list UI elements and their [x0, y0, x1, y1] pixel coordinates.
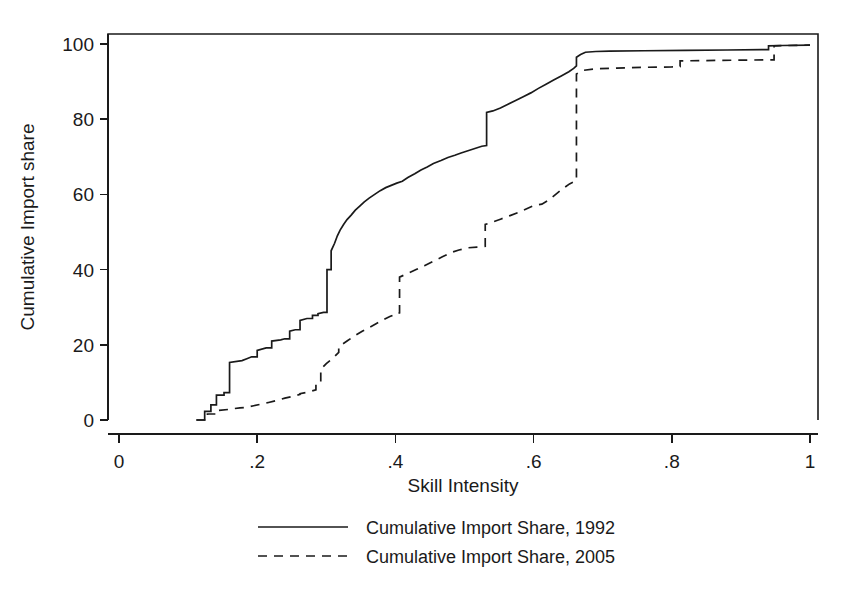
y-tick-label-40: 40 — [73, 260, 94, 281]
y-axis-label: Cumulative Import share — [17, 124, 38, 331]
y-tick-label-20: 20 — [73, 335, 94, 356]
x-axis-label: Skill Intensity — [408, 475, 519, 496]
x-tick-label-0: 0 — [114, 451, 125, 472]
y-tick-label-100: 100 — [62, 34, 94, 55]
x-tick-label-1: 1 — [805, 451, 816, 472]
chart-background — [0, 0, 846, 599]
y-tick-label-80: 80 — [73, 109, 94, 130]
x-tick-label-0-4: .4 — [387, 451, 403, 472]
y-tick-label-60: 60 — [73, 184, 94, 205]
x-tick-label-0-2: .2 — [249, 451, 265, 472]
x-tick-label-0-6: .6 — [526, 451, 542, 472]
x-tick-label-0-8: .8 — [664, 451, 680, 472]
legend-label-2005: Cumulative Import Share, 2005 — [366, 547, 615, 567]
legend-label-1992: Cumulative Import Share, 1992 — [366, 518, 615, 538]
cumulative-import-share-chart: 0 20 40 60 80 100 0 .2 .4 .6 .8 1 Skill … — [0, 0, 846, 599]
y-tick-label-0: 0 — [83, 410, 94, 431]
